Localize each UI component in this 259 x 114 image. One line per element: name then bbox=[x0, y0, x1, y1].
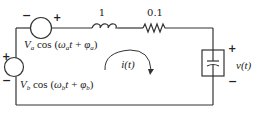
resistor-value: 0.1 bbox=[147, 7, 163, 18]
current-arrowhead-icon bbox=[148, 69, 154, 75]
loop-current-label: i(t) bbox=[121, 58, 135, 71]
voltage-source-a: − + Va cos (ωat + φa) bbox=[22, 9, 98, 52]
inductor-value: 1 bbox=[99, 7, 105, 18]
capacitor-minus: − bbox=[228, 75, 237, 88]
source-a-plus: + bbox=[53, 12, 61, 23]
source-b-label: Vb cos (ωbt + φb) bbox=[20, 78, 94, 92]
source-b-plus: + bbox=[2, 51, 10, 62]
resistor-zigzag-icon bbox=[143, 24, 168, 32]
inductor-coil-icon bbox=[92, 24, 118, 28]
capacitor: + − v(t) bbox=[202, 43, 252, 88]
circuit-diagram: − + Va cos (ωat + φa) + − Vb cos (ωbt + … bbox=[0, 0, 259, 114]
capacitor-plus: + bbox=[228, 43, 236, 54]
source-b-minus: − bbox=[2, 74, 11, 87]
source-a-label: Va cos (ωat + φa) bbox=[24, 38, 98, 52]
resistor: 0.1 bbox=[143, 7, 168, 32]
source-a-minus: − bbox=[22, 9, 31, 22]
loop-current: i(t) bbox=[105, 50, 154, 75]
inductor: 1 bbox=[92, 7, 118, 28]
source-a-circle-icon bbox=[31, 18, 52, 39]
capacitor-voltage-label: v(t) bbox=[236, 59, 252, 72]
